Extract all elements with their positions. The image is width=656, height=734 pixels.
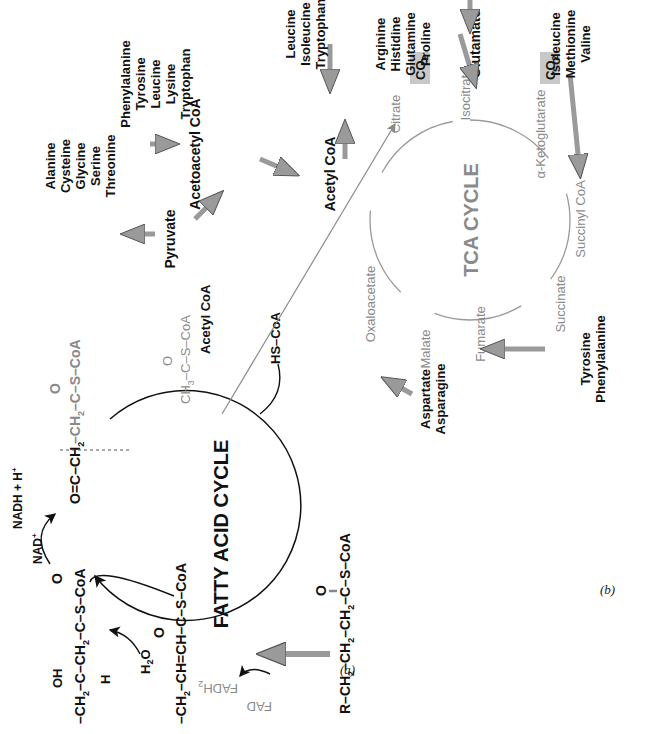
aa-group-acetoacetyl: Phenylalanine Tyrosine Leucine Lysine Tr… — [118, 40, 193, 127]
svg-text:Proline: Proline — [418, 22, 433, 66]
svg-text:–CH2–CH=CH–C–S–CoA: –CH2–CH=CH–C–S–CoA — [173, 563, 192, 724]
acetyl-coa-label: Acetyl CoA — [198, 284, 213, 354]
svg-text:Arginine: Arginine — [373, 18, 388, 71]
svg-text:Phenylalanine: Phenylalanine — [593, 315, 608, 402]
nadh-label: NADH + H+ — [10, 467, 25, 529]
svg-text:Leucine: Leucine — [148, 59, 163, 108]
hub-pyruvate: Pyruvate — [162, 209, 178, 268]
svg-text:OH: OH — [50, 669, 65, 689]
aa-group-succinyl: Isoleucine Methionine Valine — [548, 10, 593, 79]
svg-text:O=C–CH2: O=C–CH2 — [67, 442, 86, 504]
fatty-acid-cycle-title: FATTY ACID CYCLE — [210, 440, 232, 629]
carbonyl-oxygen: O — [313, 585, 329, 596]
tca-malate: Malate — [418, 329, 433, 368]
svg-text:H: H — [98, 675, 113, 684]
tca-cycle-panel: TCA CYCLE Citrate Isocitrate α-Ketogluta… — [43, 0, 615, 597]
svg-text:Lysine: Lysine — [163, 64, 178, 105]
svg-text:Threonine: Threonine — [103, 135, 118, 198]
nad-label: NAD+ — [30, 533, 45, 564]
svg-text:Glutamine: Glutamine — [403, 12, 418, 76]
panel-a-label: (a) — [340, 662, 355, 677]
h2o-label: H2O — [138, 649, 155, 674]
tca-fumarate: Fumarate — [473, 306, 488, 362]
aa-group-oxaloacetate: Aspartate Asparagine — [418, 364, 448, 435]
svg-text:Tyrosine: Tyrosine — [578, 332, 593, 385]
acetyl-coa-product: CH3–C–S–CoA O Acetyl CoA — [160, 284, 213, 404]
svg-text:O: O — [47, 383, 63, 394]
svg-text:O: O — [49, 573, 65, 584]
panel-b-label: (b) — [600, 582, 615, 597]
svg-text:Tryptophan: Tryptophan — [313, 0, 328, 69]
svg-text:Serine: Serine — [88, 146, 103, 186]
svg-text:O: O — [160, 356, 175, 366]
aa-group-acetyl: Leucine Isoleucine Tryptophan — [283, 0, 328, 69]
svg-text:Asparagine: Asparagine — [433, 364, 448, 435]
aa-group-fumarate: Tyrosine Phenylalanine — [578, 315, 608, 402]
fad-label: FAD — [247, 699, 272, 714]
tca-citrate: Citrate — [388, 95, 403, 133]
svg-text:Methionine: Methionine — [563, 10, 578, 79]
tca-cycle-title: TCA CYCLE — [460, 163, 482, 277]
svg-text:Tyrosine: Tyrosine — [133, 57, 148, 110]
svg-text:Isoleucine: Isoleucine — [298, 2, 313, 66]
fadh2-label: FADH2 — [198, 679, 238, 696]
tca-succinyl-coa: Succinyl CoA — [573, 180, 588, 258]
svg-text:Isoleucine: Isoleucine — [548, 12, 563, 76]
svg-text:–CH2–C–CH2–C–S–CoA: –CH2–C–CH2–C–S–CoA — [72, 568, 91, 724]
hub-acetyl-coa: Acetyl CoA — [322, 137, 338, 212]
metabolism-diagram: FATTY ACID CYCLE R–CH2–CH2–CH2–C–S–CoA O… — [0, 0, 656, 734]
svg-text:O: O — [151, 627, 167, 638]
enoyl-coa-formula: –CH2–CH=CH–C–S–CoA O — [151, 563, 192, 724]
svg-text:Histidine: Histidine — [388, 17, 403, 72]
aa-group-pyruvate: Alanine Cysteine Glycine Serine Threonin… — [43, 135, 118, 198]
substrate-formula: R–CH2–CH2–CH2–C–S–CoA O — [313, 533, 356, 714]
hscoa-label: HS–CoA — [268, 311, 283, 364]
ketoacyl-coa-formula: O=C–CH2 –CH2–C–S–CoA O — [47, 339, 130, 504]
tca-oxaloacetate: Oxaloacetate — [363, 266, 378, 343]
rotated-figure: FATTY ACID CYCLE R–CH2–CH2–CH2–C–S–CoA O… — [0, 0, 656, 734]
hydroxyacyl-coa-formula: –CH2–C–CH2–C–S–CoA OH H O — [49, 568, 113, 724]
svg-text:Alanine: Alanine — [43, 143, 58, 190]
svg-text:Cysteine: Cysteine — [58, 139, 73, 193]
svg-text:Tryptophan: Tryptophan — [178, 49, 193, 120]
svg-text:Leucine: Leucine — [283, 9, 298, 58]
svg-text:Glycine: Glycine — [73, 143, 88, 190]
fatty-acid-cycle-arc — [95, 390, 301, 620]
svg-text:–CH2–C–S–CoA: –CH2–C–S–CoA — [67, 339, 86, 444]
svg-text:Phenylalanine: Phenylalanine — [118, 40, 133, 127]
svg-text:Aspartate: Aspartate — [418, 369, 433, 429]
substrate-acyl-coa: R–CH2–CH2–CH2–C–S–CoA — [337, 533, 356, 714]
tca-succinate: Succinate — [553, 275, 568, 332]
tca-alpha-ketoglutarate: α-Ketoglutarate — [533, 89, 548, 178]
svg-text:Valine: Valine — [578, 25, 593, 63]
